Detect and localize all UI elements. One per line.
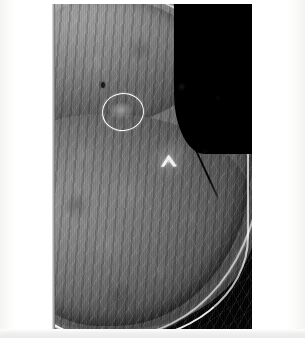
page-left-gutter [0,0,14,338]
mammogram-image [52,4,252,329]
punctate-focus-icon [101,82,105,88]
chest-wall-margin [52,4,55,329]
page-right-gutter [287,0,305,338]
page-canvas [0,0,305,338]
page-bottom-margin [0,329,305,338]
biopsy-marker-clip-icon [160,153,178,168]
